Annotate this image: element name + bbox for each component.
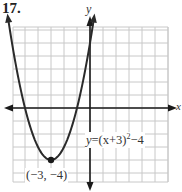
x-axis-label: x [176, 100, 181, 112]
equation-rhs-prefix: =(x+3) [92, 133, 127, 147]
equation-rhs-suffix: −4 [131, 133, 144, 147]
vertex-point [48, 157, 54, 163]
x-axis-left-arrow-icon [4, 105, 13, 112]
y-axis-label: y [86, 2, 91, 17]
equation-label: y=(x+3)2−4 [85, 132, 145, 148]
vertex-label: (−3, −4) [25, 168, 68, 183]
y-axis-down-arrow-icon [87, 182, 94, 191]
graph-plot [0, 0, 182, 192]
curve-left-arrow-icon [5, 14, 12, 23]
